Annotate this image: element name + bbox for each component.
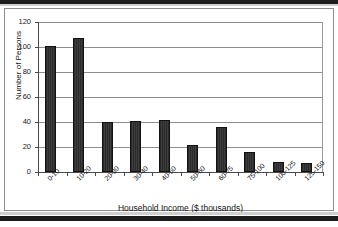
bar [216, 127, 227, 172]
chart-frame: 020406080100120 Number of Persons 0-1010… [4, 8, 334, 211]
chart-screenshot: 020406080100120 Number of Persons 0-1010… [0, 0, 338, 227]
x-tick-mark [38, 172, 39, 176]
bar [73, 38, 84, 172]
x-tick-mark [124, 172, 125, 176]
bar [45, 46, 56, 172]
x-tick-mark [209, 172, 210, 176]
bar [102, 122, 113, 172]
bar [159, 120, 170, 173]
x-tick-mark [323, 172, 324, 176]
x-tick-mark [152, 172, 153, 176]
x-tick-mark [238, 172, 239, 176]
x-tick-mark [67, 172, 68, 176]
x-tick-mark [266, 172, 267, 176]
y-tick-label: 0 [5, 168, 31, 176]
bar [130, 121, 141, 172]
y-tick-label: 20 [5, 143, 31, 151]
x-tick-mark [295, 172, 296, 176]
x-tick-mark [181, 172, 182, 176]
y-axis-title: Number of Persons [14, 20, 23, 112]
y-tick-label: 40 [5, 118, 31, 126]
page-scan-edge-bottom [0, 216, 338, 221]
page-scan-edge-bottom-soft [0, 212, 338, 215]
page-scan-edge-top-soft [0, 4, 338, 6]
bar-series [38, 22, 323, 172]
x-tick-mark [95, 172, 96, 176]
